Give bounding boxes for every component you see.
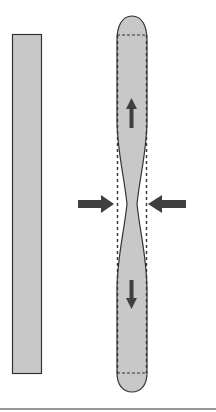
compression-arrow-left	[78, 195, 114, 213]
compression-arrow-right	[148, 195, 186, 213]
bottom-rule	[0, 408, 216, 410]
deformed-rod	[117, 16, 147, 392]
original-rod	[13, 35, 42, 374]
deformation-diagram	[0, 0, 216, 412]
